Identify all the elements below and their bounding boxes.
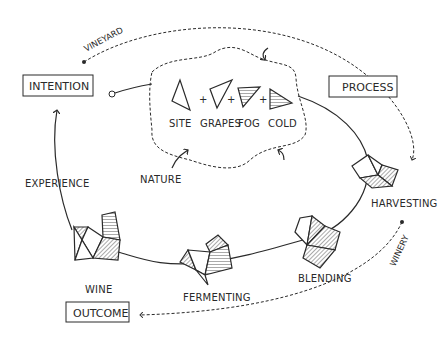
factor-cold-label: COLD [268,118,297,129]
winery-dot [400,220,404,224]
winery-label: WINERY [388,233,411,268]
blending-icon [295,216,340,268]
nature-label: NATURE [140,174,181,185]
intention-node: INTENTION [23,75,93,96]
factor-fog: FOG [238,87,260,129]
plus-icon: + [199,94,208,105]
winery-path [140,222,402,315]
wine-process-diagram: VINEYARD WINERY NATURE SITE + GRAPES + F… [0,0,448,341]
nature-arrow-right [278,150,284,160]
intention-to-nature-line [115,84,152,93]
fermenting-icon [180,235,232,285]
harvesting-icon [352,155,398,188]
vineyard-label: VINEYARD [82,25,125,54]
factor-site: SITE [169,80,192,129]
fog-icon [238,87,260,107]
stage-fermenting-label: FERMENTING [183,292,251,303]
factor-cold: COLD [268,89,297,129]
stage-blending-label: BLENDING [298,273,352,284]
process-node: PROCESS [329,76,397,97]
intention-connector [109,91,115,97]
experience-arrow [55,110,72,230]
intention-label: INTENTION [29,80,89,93]
process-label: PROCESS [342,81,394,94]
factor-site-label: SITE [169,118,192,129]
stage-wine-label: WINE [85,284,112,295]
outcome-label: OUTCOME [73,307,129,320]
plus-icon: + [227,94,236,105]
wine-icon [74,212,120,260]
vineyard-dot [82,60,86,64]
factor-fog-label: FOG [238,118,260,129]
cold-icon [270,89,292,109]
nature-arrow-top [263,48,268,60]
plus-icon: + [259,94,268,105]
outcome-node: OUTCOME [66,302,129,322]
nature-cloud [150,47,306,168]
experience-label: EXPERIENCE [25,178,90,189]
factor-grapes-label: GRAPES [200,118,241,129]
stage-harvesting-label: HARVESTING [371,198,438,209]
site-icon [172,80,190,110]
